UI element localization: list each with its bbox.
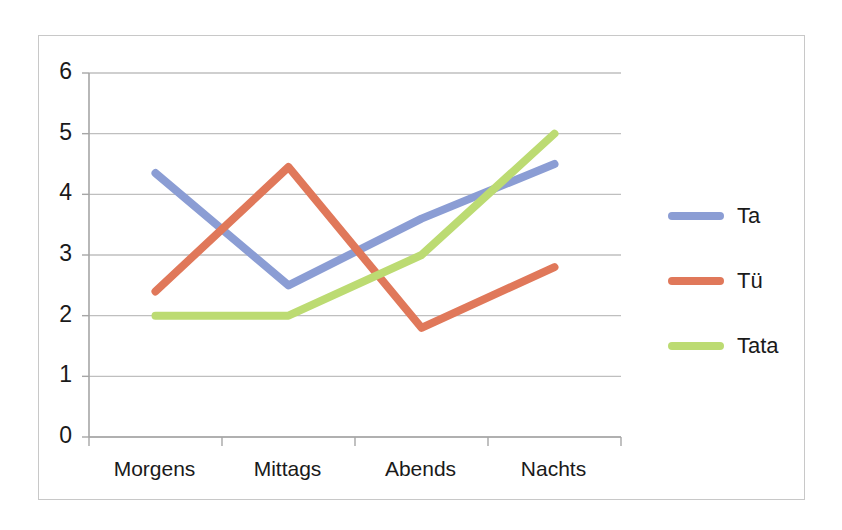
legend-item-tü: Tü	[668, 270, 763, 292]
legend-item-tata: Tata	[668, 335, 779, 357]
legend-color-swatch	[668, 212, 724, 220]
legend-label: Ta	[737, 205, 760, 227]
y-tick-label: 2	[32, 303, 72, 326]
legend-item-ta: Ta	[668, 205, 760, 227]
chart-frame	[38, 35, 805, 500]
y-tick-label: 1	[32, 363, 72, 386]
y-tick-label: 6	[32, 60, 72, 83]
legend-color-swatch	[668, 277, 724, 285]
x-tick-label: Morgens	[85, 458, 225, 479]
series-line-ta	[156, 164, 555, 285]
y-tick-label: 0	[32, 424, 72, 447]
y-tick-label: 5	[32, 121, 72, 144]
legend-label: Tü	[737, 270, 763, 292]
legend-label: Tata	[737, 335, 779, 357]
x-tick-label: Nachts	[484, 458, 624, 479]
y-tick-label: 3	[32, 242, 72, 265]
line-chart-plot	[39, 36, 806, 501]
x-tick-label: Mittags	[218, 458, 358, 479]
legend-color-swatch	[668, 342, 724, 350]
chart-plot-container	[39, 36, 804, 499]
y-tick-label: 4	[32, 181, 72, 204]
x-tick-label: Abends	[351, 458, 491, 479]
